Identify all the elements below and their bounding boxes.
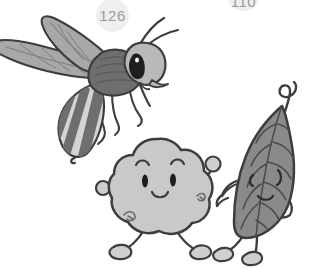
blob-hand-right [206, 157, 221, 172]
leaf-foot-right [242, 252, 262, 265]
blob-eye-right [170, 174, 176, 187]
blob-body [109, 139, 213, 234]
badge-110[interactable]: 110 [227, 0, 260, 11]
blob-character [96, 139, 221, 259]
leaf-character [213, 82, 296, 265]
leaf-foot-left [213, 248, 233, 261]
wasp-abdomen [45, 82, 106, 160]
blob-foot-left [110, 245, 132, 259]
illustration-canvas: 126 110 [0, 0, 310, 270]
wasp-eye-glint [135, 57, 139, 62]
blob-eye-left [142, 175, 148, 188]
creatures-illustration [0, 0, 310, 270]
blob-foot-right [190, 245, 211, 259]
badge-126[interactable]: 126 [96, 0, 129, 32]
blob-legs [110, 230, 212, 259]
